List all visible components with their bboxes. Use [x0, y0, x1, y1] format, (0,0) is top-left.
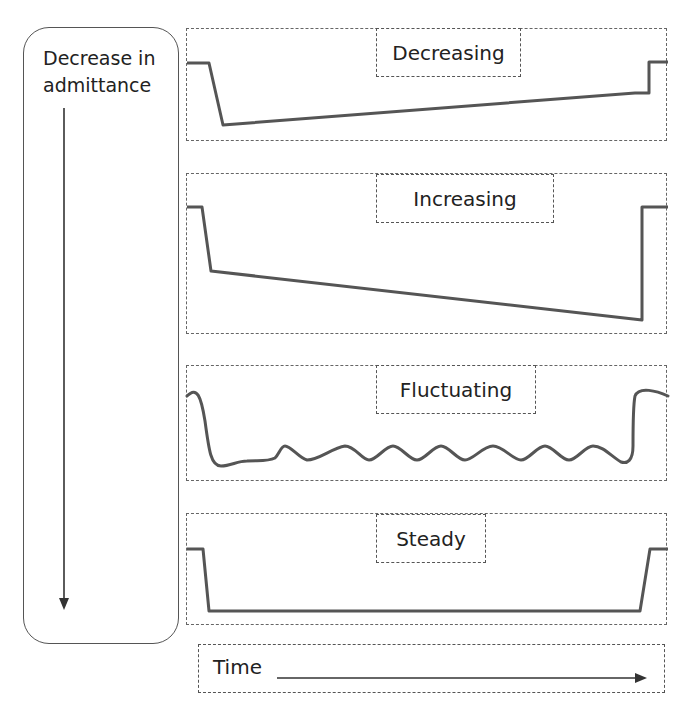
increasing-title-text: Increasing: [413, 187, 516, 211]
time-axis-box: Time: [198, 644, 665, 693]
fluctuating-title: Fluctuating: [376, 365, 536, 414]
admittance-axis-box: Decrease in admittance: [23, 27, 179, 644]
increasing-title: Increasing: [376, 174, 554, 223]
panel-fluctuating: Fluctuating: [186, 365, 667, 481]
panel-decreasing: Decreasing: [186, 28, 667, 141]
steady-title: Steady: [376, 514, 486, 563]
panel-increasing: Increasing: [186, 173, 667, 334]
decreasing-title-text: Decreasing: [392, 41, 504, 65]
decreasing-title: Decreasing: [376, 28, 521, 77]
down-arrow-icon: [24, 28, 180, 645]
right-arrow-icon: [199, 645, 666, 694]
steady-title-text: Steady: [396, 527, 466, 551]
panel-steady: Steady: [186, 513, 667, 625]
fluctuating-title-text: Fluctuating: [400, 378, 512, 402]
